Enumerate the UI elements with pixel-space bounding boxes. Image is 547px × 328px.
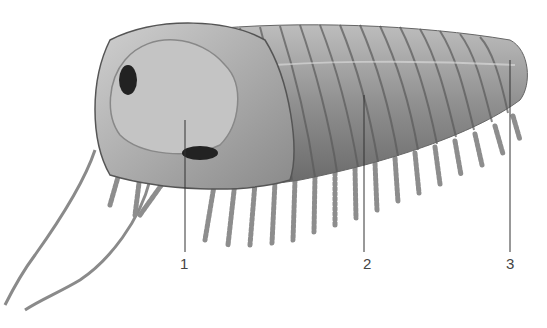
right-eye (182, 146, 218, 160)
label-2: 2 (363, 256, 371, 271)
trilobite-drawing (0, 0, 547, 328)
trilobite-illustration: 1 2 3 (0, 0, 547, 328)
label-1: 1 (180, 256, 188, 271)
left-eye (119, 65, 137, 95)
label-3: 3 (506, 256, 514, 271)
